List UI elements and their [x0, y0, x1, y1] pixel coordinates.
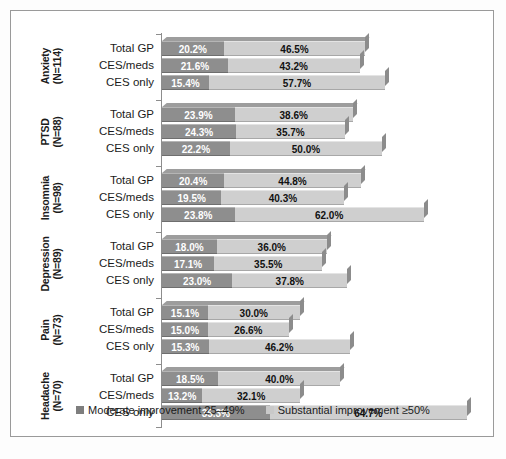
bar-segment-substantial: 40.0% — [218, 371, 340, 386]
bar-segment-substantial: 44.8% — [224, 173, 361, 188]
bar-segment-substantial: 46.2% — [209, 339, 350, 354]
bar-segment-moderate: 18.0% — [162, 239, 217, 254]
bar-segment-moderate: 21.6% — [162, 58, 228, 73]
bar-segment-moderate: 15.0% — [162, 322, 208, 337]
bar-right-face — [353, 99, 357, 118]
bar-segment-moderate: 20.4% — [162, 173, 224, 188]
group-label-depression: Depression(N=89) — [19, 239, 83, 288]
bar-right-face — [350, 331, 354, 350]
bar-segment-substantial: 35.5% — [214, 256, 322, 271]
bar-right-face — [424, 199, 428, 218]
group-condition-name: Insomnia — [39, 175, 51, 220]
axis-tick — [156, 364, 162, 365]
bar-right-face — [300, 380, 304, 399]
bar-row: 20.2%46.5% — [162, 41, 365, 56]
bar-segment-moderate: 18.5% — [162, 371, 218, 386]
bar-row: 23.9%38.6% — [162, 107, 353, 122]
bar-segment-substantial: 38.6% — [235, 107, 353, 122]
bar-row: 19.5%40.3% — [162, 190, 344, 205]
bar-right-face — [300, 297, 304, 316]
group-label-ptsd: PTSD(N=88) — [19, 107, 83, 156]
axis-tick — [156, 166, 162, 167]
axis-tick — [156, 298, 162, 299]
bar-segment-substantial: 50.0% — [230, 141, 383, 156]
chart-frame: Total GP20.2%46.5%CES/meds21.6%43.2%CES … — [10, 10, 494, 437]
bar-segment-moderate: 15.1% — [162, 305, 208, 320]
plot-area: Total GP20.2%46.5%CES/meds21.6%43.2%CES … — [11, 11, 495, 438]
figure-canvas: Total GP20.2%46.5%CES/meds21.6%43.2%CES … — [0, 0, 506, 459]
bar-row: 23.0%37.8% — [162, 273, 347, 288]
bar-right-face — [365, 33, 369, 52]
group-sample-size: (N=88) — [51, 116, 63, 147]
legend-label-moderate: Moderate improvement 25–49% — [88, 404, 245, 416]
bar-segment-moderate: 24.3% — [162, 124, 236, 139]
bar-segment-substantial: 30.0% — [208, 305, 300, 320]
bar-row: 17.1%35.5% — [162, 256, 322, 271]
group-sample-size: (N=114) — [51, 47, 63, 84]
bar-segment-substantial: 32.1% — [202, 388, 300, 403]
bar-segment-substantial: 37.8% — [232, 273, 347, 288]
bar-row: 24.3%35.7% — [162, 124, 345, 139]
axis-tick — [156, 427, 162, 428]
bar-row: 22.2%50.0% — [162, 141, 382, 156]
bar-segment-moderate: 17.1% — [162, 256, 214, 271]
bar-right-face — [344, 182, 348, 201]
group-condition-name: Pain — [39, 314, 51, 345]
group-condition-name: Depression — [39, 236, 51, 291]
bar-segment-substantial: 57.7% — [209, 75, 385, 90]
legend-label-substantial: Substantial improvement ≥50% — [278, 404, 430, 416]
chart-legend: Moderate improvement 25–49% Substantial … — [11, 403, 495, 416]
bar-segment-moderate: 15.3% — [162, 339, 209, 354]
category-axis-line — [161, 33, 162, 428]
bar-segment-moderate: 19.5% — [162, 190, 221, 205]
bar-segment-moderate: 23.8% — [162, 207, 235, 222]
bar-right-face — [382, 133, 386, 152]
bar-right-face — [385, 67, 389, 86]
group-sample-size: (N=73) — [51, 314, 63, 345]
bar-segment-substantial: 46.5% — [224, 41, 366, 56]
bar-right-face — [347, 265, 351, 284]
group-condition-name: Anxiety — [39, 47, 51, 84]
bar-segment-substantial: 62.0% — [235, 207, 424, 222]
axis-tick — [156, 100, 162, 101]
bar-row: 18.0%36.0% — [162, 239, 327, 254]
bar-row: 23.8%62.0% — [162, 207, 424, 222]
bar-right-face — [327, 231, 331, 250]
bar-segment-moderate: 15.4% — [162, 75, 209, 90]
bar-right-face — [360, 50, 364, 69]
bar-row: 21.6%43.2% — [162, 58, 360, 73]
group-sample-size: (N=89) — [51, 236, 63, 291]
bar-right-face — [345, 116, 349, 135]
group-label-anxiety: Anxiety(N=114) — [19, 41, 83, 90]
bar-row: 20.4%44.8% — [162, 173, 361, 188]
group-sample-size: (N=98) — [51, 175, 63, 220]
bar-row: 15.1%30.0% — [162, 305, 300, 320]
bar-segment-moderate: 22.2% — [162, 141, 230, 156]
legend-swatch-moderate-icon — [76, 406, 84, 414]
bar-segment-moderate: 23.9% — [162, 107, 235, 122]
bar-right-face — [289, 314, 293, 333]
legend-item-moderate: Moderate improvement 25–49% — [76, 404, 245, 416]
group-label-pain: Pain(N=73) — [19, 305, 83, 354]
bar-row: 18.5%40.0% — [162, 371, 340, 386]
bar-right-face — [322, 248, 326, 267]
bar-row: 15.0%26.6% — [162, 322, 289, 337]
legend-swatch-substantial-icon — [266, 406, 274, 414]
bar-row: 13.2%32.1% — [162, 388, 300, 403]
bar-segment-substantial: 40.3% — [221, 190, 344, 205]
bar-right-face — [340, 363, 344, 382]
bar-row: 15.3%46.2% — [162, 339, 350, 354]
group-label-insomnia: Insomnia(N=98) — [19, 173, 83, 222]
axis-tick — [156, 232, 162, 233]
bar-segment-moderate: 23.0% — [162, 273, 232, 288]
bar-segment-substantial: 43.2% — [228, 58, 360, 73]
legend-item-substantial: Substantial improvement ≥50% — [266, 404, 430, 416]
bar-segment-moderate: 20.2% — [162, 41, 224, 56]
bar-segment-substantial: 26.6% — [208, 322, 289, 337]
bar-segment-substantial: 36.0% — [217, 239, 327, 254]
bar-row: 15.4%57.7% — [162, 75, 385, 90]
bar-segment-moderate: 13.2% — [162, 388, 202, 403]
group-condition-name: PTSD — [39, 116, 51, 147]
bar-right-face — [361, 165, 365, 184]
bar-segment-substantial: 35.7% — [236, 124, 345, 139]
